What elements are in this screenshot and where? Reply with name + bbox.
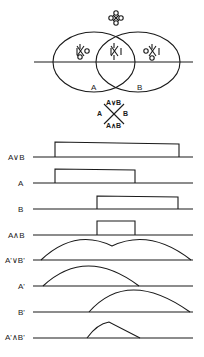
svg-text:A∨B: A∨B bbox=[8, 153, 25, 162]
label-b: B bbox=[137, 83, 142, 92]
cross-bottom: A∧B bbox=[106, 122, 121, 129]
cross-top: A∨B bbox=[106, 99, 121, 106]
region-left-symbol-icon bbox=[77, 44, 89, 59]
svg-text:A∧B: A∧B bbox=[8, 231, 25, 240]
region-right-symbol-icon bbox=[144, 44, 159, 60]
row-a-prime-or-b-prime: A'∨B' bbox=[5, 240, 193, 265]
cross-diagram: A∨B A B A∧B bbox=[97, 99, 128, 129]
row-a: A bbox=[18, 169, 193, 188]
cross-left: A bbox=[97, 110, 102, 117]
venn-logic-diagram: A B A∨B A B A∧B A∨B A B A∧B A'∨B' A' bbox=[0, 0, 204, 357]
svg-text:B: B bbox=[18, 205, 23, 214]
row-b: B bbox=[18, 196, 193, 214]
svg-text:A: A bbox=[18, 179, 24, 188]
svg-text:A': A' bbox=[18, 282, 25, 291]
row-b-prime: B' bbox=[18, 290, 193, 317]
svg-text:A'∧B': A'∧B' bbox=[5, 333, 25, 342]
svg-text:B': B' bbox=[18, 308, 25, 317]
row-a-or-b: A∨B bbox=[8, 142, 193, 162]
row-a-prime-and-b-prime: A'∧B' bbox=[5, 322, 193, 342]
row-a-prime: A' bbox=[18, 266, 193, 291]
cross-right: B bbox=[123, 110, 128, 117]
region-center-symbol-icon bbox=[111, 43, 121, 60]
svg-text:A'∨B': A'∨B' bbox=[5, 256, 25, 265]
top-symbol-icon bbox=[109, 11, 123, 25]
row-a-and-b: A∧B bbox=[8, 221, 193, 240]
label-a: A bbox=[91, 83, 97, 92]
